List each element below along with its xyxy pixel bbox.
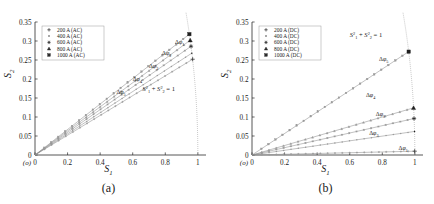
panel-b: 00.20.40.60.8100.050.10.150.20.250.30.35… (217, 0, 434, 204)
svg-text:Δφ5: Δφ5 (379, 56, 388, 64)
svg-text:1000 A (DC): 1000 A (DC) (274, 52, 302, 59)
svg-text:Δφ2: Δφ2 (162, 50, 171, 58)
svg-text:0.3: 0.3 (23, 38, 32, 46)
svg-text:S21 + S22 = 1: S21 + S22 = 1 (350, 31, 383, 40)
panel-b-y-axis-title: S2 (219, 70, 232, 78)
svg-text:Δφ1: Δφ1 (175, 39, 184, 47)
svg-text:0.1: 0.1 (23, 114, 32, 122)
svg-text:0.25: 0.25 (19, 57, 32, 65)
svg-text:0.05: 0.05 (19, 133, 32, 141)
panel-a-y-axis-title: S2 (2, 70, 15, 78)
panel-a-x-axis-title: S1 (0, 163, 217, 176)
svg-text:S21 + S22 = 1: S21 + S22 = 1 (142, 85, 175, 94)
svg-text:0.3: 0.3 (240, 38, 249, 46)
figure-root: 00.20.40.60.8100.050.10.150.20.250.30.35… (0, 0, 434, 204)
panel-a-caption: (a) (0, 181, 217, 196)
svg-text:0.2: 0.2 (240, 76, 249, 84)
svg-text:1000 A (AC): 1000 A (AC) (57, 52, 85, 59)
svg-text:0.35: 0.35 (19, 19, 32, 27)
panel-b-caption: (b) (217, 181, 434, 196)
svg-text:0.15: 0.15 (19, 95, 32, 103)
svg-text:Δφ5: Δφ5 (116, 89, 125, 97)
svg-text:Δφ4: Δφ4 (366, 92, 376, 100)
svg-text:0.15: 0.15 (236, 95, 249, 103)
panel-a: 00.20.40.60.8100.050.10.150.20.250.30.35… (0, 0, 217, 204)
svg-text:0.2: 0.2 (23, 76, 32, 84)
svg-text:0.1: 0.1 (240, 114, 249, 122)
svg-text:Δφ2: Δφ2 (369, 130, 378, 138)
svg-text:0.35: 0.35 (236, 19, 249, 27)
panel-b-x-axis-title: S1 (217, 163, 434, 176)
svg-text:0.05: 0.05 (236, 133, 249, 141)
svg-text:0.25: 0.25 (236, 57, 249, 65)
